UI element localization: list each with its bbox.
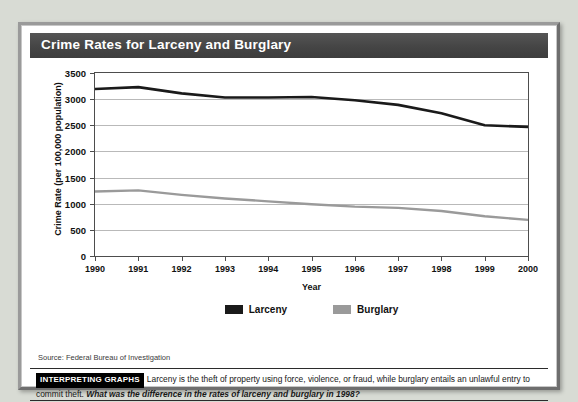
legend-swatch-larceny [225, 305, 243, 314]
y-tick-label: 1500 [65, 172, 86, 183]
series-line-burglary [95, 190, 528, 220]
y-tick-label: 1000 [65, 198, 86, 209]
y-tick-label: 2000 [65, 146, 86, 157]
legend-swatch-burglary [333, 305, 351, 314]
x-tick-label: 1997 [388, 264, 408, 274]
y-tick-label: 2500 [65, 120, 86, 131]
x-tick-mark [312, 256, 313, 261]
y-tick-label: 500 [70, 224, 86, 235]
caption-tag: INTERPRETING GRAPHS [36, 373, 144, 388]
figure-frame: Crime Rates for Larceny and Burglary Cri… [18, 22, 560, 390]
figure-title-band: Crime Rates for Larceny and Burglary [30, 33, 548, 58]
figure-card: Crime Rates for Larceny and Burglary Cri… [21, 25, 557, 387]
y-axis-title: Crime Rate (per 100,000 population) [53, 79, 63, 239]
y-tick-label: 3500 [65, 68, 86, 79]
y-tick-label: 3000 [65, 94, 86, 105]
x-tick-label: 1990 [85, 264, 105, 274]
x-tick-label: 1992 [172, 264, 192, 274]
x-tick-mark [355, 256, 356, 261]
x-tick-label: 1993 [215, 264, 235, 274]
x-tick-label: 1994 [258, 264, 278, 274]
plot-area: 0500100015002000250030003500 19901991199… [94, 72, 529, 257]
series-lines [95, 73, 528, 256]
x-tick-mark [268, 256, 269, 261]
x-tick-label: 1996 [345, 264, 365, 274]
series-line-larceny [95, 87, 528, 127]
x-tick-label: 1995 [301, 264, 321, 274]
legend-item-burglary: Burglary [333, 304, 398, 315]
legend-label-burglary: Burglary [357, 304, 398, 315]
source-note: Source: Federal Bureau of Investigation [38, 353, 170, 362]
x-tick-mark [441, 256, 442, 261]
x-tick-label: 1999 [475, 264, 495, 274]
x-tick-mark [398, 256, 399, 261]
x-tick-label: 2000 [518, 264, 538, 274]
chart-area: Crime Rate (per 100,000 population) 0500… [30, 64, 548, 319]
caption-box: INTERPRETING GRAPHSLarceny is the theft … [30, 368, 548, 401]
legend-label-larceny: Larceny [249, 304, 287, 315]
x-tick-mark [528, 256, 529, 261]
y-tick-label: 0 [81, 251, 86, 262]
x-tick-mark [182, 256, 183, 261]
legend: LarcenyBurglary [94, 304, 529, 315]
x-tick-mark [95, 256, 96, 261]
legend-item-larceny: Larceny [225, 304, 287, 315]
caption-question: What was the difference in the rates of … [86, 389, 360, 399]
x-tick-mark [138, 256, 139, 261]
figure-title: Crime Rates for Larceny and Burglary [41, 37, 291, 52]
x-tick-label: 1991 [128, 264, 148, 274]
x-axis-title: Year [94, 282, 529, 292]
caption-text: INTERPRETING GRAPHSLarceny is the theft … [36, 373, 542, 400]
x-tick-mark [485, 256, 486, 261]
x-tick-label: 1998 [431, 264, 451, 274]
x-tick-mark [225, 256, 226, 261]
